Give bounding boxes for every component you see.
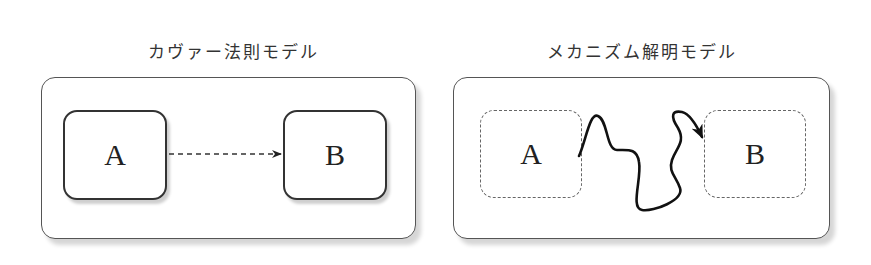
- wavy-mechanism-arrow: [579, 112, 702, 211]
- connector-layer: [0, 0, 871, 265]
